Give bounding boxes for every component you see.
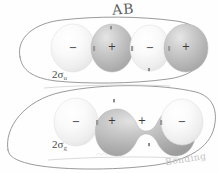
sign-anti-4: + [181, 42, 191, 52]
separator-line-lower [48, 157, 178, 160]
sign-bond-3: + [137, 116, 147, 126]
molecular-orbital-diagram: − + − + − + + − 2σu 2σg AB Bonding [0, 0, 219, 173]
node-tick-bond-4 [148, 143, 150, 146]
node-tick-anti-4 [110, 26, 112, 29]
orbital-label-bonding: 2σg [52, 134, 67, 152]
orbital-label-antibonding: 2σu [52, 64, 67, 82]
sign-anti-3: − [145, 43, 155, 53]
sign-anti-2: + [107, 42, 117, 52]
orbital-graphics-layer [0, 0, 219, 173]
node-tick-anti-1 [93, 46, 95, 51]
node-tick-bond-3 [113, 99, 115, 102]
annotation-antibonding: AB [111, 0, 134, 18]
sign-bond-4: − [177, 117, 187, 127]
orbital-label-subscript-bond: g [63, 144, 67, 152]
orbital-label-subscript-anti: u [63, 74, 67, 82]
node-tick-bond-1 [96, 120, 98, 125]
node-tick-anti-3 [168, 46, 170, 51]
node-tick-bond-2 [160, 120, 162, 125]
sign-anti-1: − [68, 43, 78, 53]
pencil-squiggle [96, 153, 107, 155]
node-tick-anti-5 [148, 68, 150, 71]
sign-bond-1: − [71, 117, 81, 127]
sign-bond-2: + [107, 116, 117, 126]
node-tick-anti-2 [131, 46, 133, 51]
